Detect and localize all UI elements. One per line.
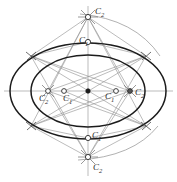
ray-c2right-to-top <box>88 17 130 91</box>
label-c2-right: C2 <box>135 88 144 99</box>
label-c2-left: C2 <box>39 94 48 105</box>
marker-c1-right <box>114 89 119 94</box>
ray-c2left-to-top <box>48 17 88 91</box>
marker-c2-left <box>46 89 51 94</box>
diagonal-upper-right-to-center <box>31 56 130 91</box>
label-c1-left: C1 <box>63 94 72 105</box>
label-c2-bottom: C2 <box>93 163 102 174</box>
geometric-construction-figure: C2 C1 C2 C1 C1 C2 C1 C2 <box>0 0 177 182</box>
label-c1-top: C1 <box>79 36 88 47</box>
marker-c2-bottom <box>85 154 90 159</box>
chord-c1right-to-upper-left <box>31 56 116 91</box>
apex-star-ticks <box>42 10 136 164</box>
label-c1-right: C1 <box>105 92 114 103</box>
marker-c2-right <box>128 89 133 94</box>
label-c1-bottom: C1 <box>92 131 101 142</box>
chord-c1left-to-upper-right <box>64 56 146 91</box>
marker-c2-top <box>85 14 90 19</box>
ray-c2top-to-right-upper <box>88 17 146 56</box>
marker-center <box>86 89 90 93</box>
marker-c1-bottom <box>85 135 90 140</box>
label-c2-top: C2 <box>95 7 104 18</box>
figure-canvas <box>0 0 177 182</box>
